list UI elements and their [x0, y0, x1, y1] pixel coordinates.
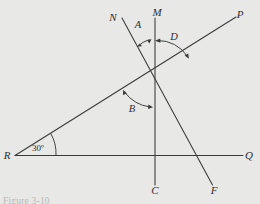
figure-root: N M P R Q C F A D B 30º Figure 3-10 [0, 0, 260, 204]
angle-label-B: B [129, 103, 136, 114]
angle-label-R-30deg: 30º [32, 143, 44, 153]
point-label-Q: Q [245, 149, 253, 161]
line-R-to-P [15, 17, 236, 156]
point-label-M: M [151, 6, 162, 18]
angle-arc-D-arrowhead-left [155, 38, 161, 42]
angle-arc-A-arrowhead-left [138, 44, 143, 47]
point-label-P: P [236, 8, 244, 20]
line-N-to-F [122, 18, 213, 185]
point-label-R: R [3, 149, 11, 161]
point-label-N: N [108, 11, 117, 23]
figure-caption: Figure 3-10 [3, 196, 50, 204]
point-label-C: C [151, 184, 159, 196]
angle-label-A: A [134, 19, 142, 30]
angle-arc-B-arrowhead-right [148, 105, 153, 109]
point-label-F: F [210, 184, 218, 196]
angle-arc-R-30deg [51, 133, 57, 156]
angle-label-D: D [169, 31, 178, 42]
geometry-diagram: N M P R Q C F A D B 30º [0, 0, 260, 204]
angle-arc-D [158, 40, 188, 56]
